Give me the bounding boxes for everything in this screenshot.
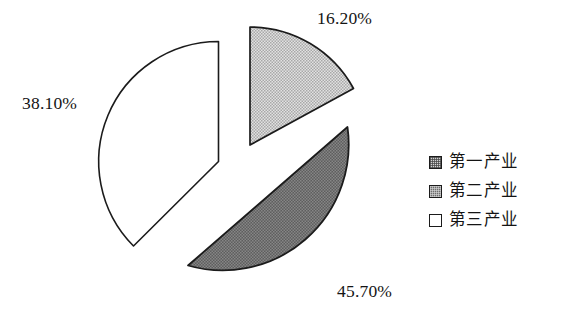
- pie-chart: 16.20% 38.10% 45.70% 第一产业 第二产业 第三产业: [0, 0, 570, 326]
- legend-item-primary[interactable]: 第一产业: [429, 148, 559, 177]
- legend-item-secondary[interactable]: 第二产业: [429, 177, 559, 206]
- light-dotted-swatch-icon: [429, 156, 442, 169]
- chart-legend: 第一产业 第二产业 第三产业: [429, 148, 559, 235]
- pie-slice-tertiary: [99, 42, 219, 247]
- pie-label-tertiary-percent: 38.10%: [22, 93, 77, 114]
- legend-item-tertiary[interactable]: 第三产业: [429, 206, 559, 235]
- pie-label-primary-percent: 16.20%: [317, 8, 372, 29]
- pie-slice-primary: [250, 27, 354, 145]
- dark-dotted-swatch-icon: [429, 185, 442, 198]
- white-swatch-icon: [429, 214, 442, 227]
- legend-label-secondary: 第二产业: [449, 183, 518, 200]
- pie-label-secondary-percent: 45.70%: [337, 281, 392, 302]
- legend-label-primary: 第一产业: [449, 154, 518, 171]
- legend-label-tertiary: 第三产业: [449, 212, 518, 229]
